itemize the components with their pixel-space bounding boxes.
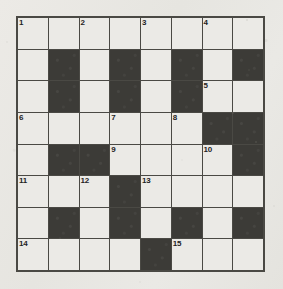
- letter-cell[interactable]: [172, 145, 202, 176]
- block-cell: [49, 208, 79, 239]
- clue-number: 13: [142, 176, 150, 185]
- clue-number: 4: [204, 18, 208, 27]
- clue-number: 8: [173, 113, 177, 122]
- clue-number: 7: [111, 113, 115, 122]
- letter-cell[interactable]: 7: [110, 113, 140, 144]
- block-cell: [49, 81, 79, 112]
- clue-number: 10: [204, 145, 212, 154]
- letter-cell[interactable]: [49, 176, 79, 207]
- letter-cell[interactable]: [203, 239, 233, 270]
- clue-number: 11: [19, 176, 27, 185]
- letter-cell[interactable]: [141, 208, 171, 239]
- letter-cell[interactable]: [80, 113, 110, 144]
- letter-cell[interactable]: 8: [172, 113, 202, 144]
- clue-number: 2: [81, 18, 85, 27]
- block-cell: [233, 145, 263, 176]
- crossword-grid[interactable]: 123456789101112131415: [16, 16, 265, 272]
- letter-cell[interactable]: [141, 145, 171, 176]
- letter-cell[interactable]: [49, 239, 79, 270]
- letter-cell[interactable]: [141, 50, 171, 81]
- letter-cell[interactable]: [141, 81, 171, 112]
- block-cell: [110, 208, 140, 239]
- letter-cell[interactable]: 2: [80, 18, 110, 49]
- letter-cell[interactable]: [80, 81, 110, 112]
- block-cell: [233, 50, 263, 81]
- letter-cell[interactable]: 3: [141, 18, 171, 49]
- letter-cell[interactable]: [141, 113, 171, 144]
- letter-cell[interactable]: [110, 239, 140, 270]
- letter-cell[interactable]: 9: [110, 145, 140, 176]
- block-cell: [172, 81, 202, 112]
- letter-cell[interactable]: [203, 50, 233, 81]
- letter-cell[interactable]: [172, 176, 202, 207]
- letter-cell[interactable]: 10: [203, 145, 233, 176]
- clue-number: 1: [19, 18, 23, 27]
- clue-number: 5: [204, 81, 208, 90]
- block-cell: [203, 113, 233, 144]
- letter-cell[interactable]: 13: [141, 176, 171, 207]
- block-cell: [110, 176, 140, 207]
- letter-cell[interactable]: [172, 18, 202, 49]
- letter-cell[interactable]: 14: [18, 239, 48, 270]
- letter-cell[interactable]: [233, 239, 263, 270]
- clue-number: 15: [173, 239, 181, 248]
- block-cell: [49, 145, 79, 176]
- block-cell: [141, 239, 171, 270]
- block-cell: [110, 81, 140, 112]
- letter-cell[interactable]: [233, 176, 263, 207]
- letter-cell[interactable]: 5: [203, 81, 233, 112]
- letter-cell[interactable]: 15: [172, 239, 202, 270]
- letter-cell[interactable]: 6: [18, 113, 48, 144]
- letter-cell[interactable]: 11: [18, 176, 48, 207]
- clue-number: 12: [81, 176, 89, 185]
- letter-cell[interactable]: 12: [80, 176, 110, 207]
- clue-number: 3: [142, 18, 146, 27]
- clue-number: 6: [19, 113, 23, 122]
- letter-cell[interactable]: [203, 208, 233, 239]
- letter-cell[interactable]: [18, 81, 48, 112]
- letter-cell[interactable]: [233, 18, 263, 49]
- letter-cell[interactable]: 1: [18, 18, 48, 49]
- letter-cell[interactable]: [18, 145, 48, 176]
- letter-cell[interactable]: [18, 208, 48, 239]
- letter-cell[interactable]: [80, 208, 110, 239]
- letter-cell[interactable]: 4: [203, 18, 233, 49]
- block-cell: [80, 145, 110, 176]
- letter-cell[interactable]: [110, 18, 140, 49]
- clue-number: 14: [19, 239, 27, 248]
- clue-number: 9: [111, 145, 115, 154]
- letter-cell[interactable]: [18, 50, 48, 81]
- block-cell: [233, 208, 263, 239]
- block-cell: [233, 113, 263, 144]
- block-cell: [49, 50, 79, 81]
- letter-cell[interactable]: [80, 50, 110, 81]
- block-cell: [110, 50, 140, 81]
- letter-cell[interactable]: [233, 81, 263, 112]
- letter-cell[interactable]: [49, 18, 79, 49]
- letter-cell[interactable]: [203, 176, 233, 207]
- block-cell: [172, 208, 202, 239]
- letter-cell[interactable]: [49, 113, 79, 144]
- block-cell: [172, 50, 202, 81]
- letter-cell[interactable]: [80, 239, 110, 270]
